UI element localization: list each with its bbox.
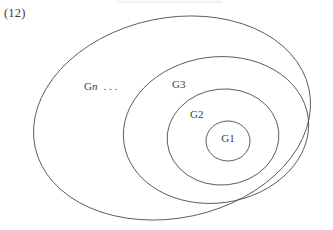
nested-groups-diagram: Gn. . . G3 G2 G1 xyxy=(0,0,333,230)
label-gn-ellipsis: . . . xyxy=(103,80,117,92)
label-gn: Gn. . . xyxy=(84,80,117,92)
label-g3: G3 xyxy=(172,78,186,90)
ellipse-g3 xyxy=(114,45,319,215)
label-gn-italic-n: n xyxy=(92,80,98,92)
figure-container: (12) Gn. . . G3 G2 G1 xyxy=(0,0,333,230)
label-g1: G1 xyxy=(221,132,234,144)
ellipse-gn xyxy=(14,0,329,230)
label-g2: G2 xyxy=(190,108,203,120)
